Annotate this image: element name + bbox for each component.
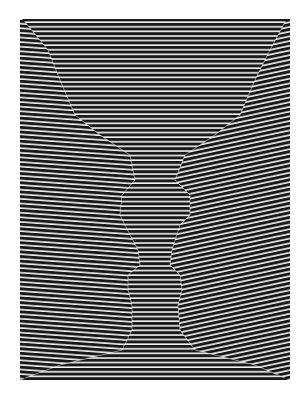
stripes-canvas [0,0,307,400]
op-art-vase-illusion [0,0,307,400]
